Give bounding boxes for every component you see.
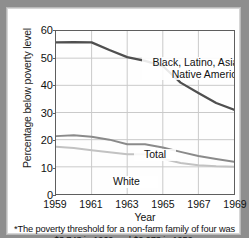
- series-label-minority: Black, Latino, Asian, and Native America…: [142, 57, 235, 80]
- x-tick-label: 1967: [179, 198, 219, 210]
- x-tick-label: 1959: [35, 198, 75, 210]
- x-tick-label: 1965: [143, 198, 183, 210]
- x-axis-title: Year: [55, 211, 235, 223]
- figure-card: Percentage below poverty level 010203040…: [6, 7, 241, 235]
- y-tick-mark: [53, 195, 56, 196]
- x-tick-label: 1961: [71, 198, 111, 210]
- series-label-white: White: [112, 176, 158, 188]
- plot-area: Black, Latino, Asian, and Native America…: [55, 30, 235, 195]
- y-axis-ticks: 0102030405060: [7, 30, 53, 195]
- y-tick-label: 40: [9, 80, 53, 90]
- x-tick-label: 1969: [215, 198, 249, 210]
- series-label-total: Total: [134, 149, 176, 161]
- x-tick-label: 1963: [107, 198, 147, 210]
- poverty-line-chart: Percentage below poverty level 010203040…: [7, 8, 242, 208]
- y-tick-label: 30: [9, 108, 53, 118]
- chart-footnote: *The poverty threshold for a non-farm fa…: [9, 224, 240, 238]
- y-tick-label: 50: [9, 53, 53, 63]
- figure-outer-frame: Percentage below poverty level 010203040…: [0, 0, 249, 238]
- y-tick-label: 20: [9, 135, 53, 145]
- y-tick-label: 60: [9, 25, 53, 35]
- y-tick-label: 10: [9, 163, 53, 173]
